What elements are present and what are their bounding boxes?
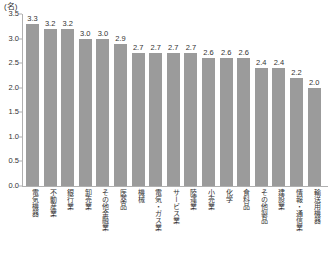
x-axis-category-label: 食料品 — [237, 189, 250, 210]
bar-column: 2.7 — [132, 14, 145, 186]
x-axis-category-label: 化学 — [220, 189, 233, 203]
y-axis-tick-label: 2.5 — [9, 59, 19, 67]
bar — [167, 53, 180, 186]
plot-area: 3.33.23.23.03.02.92.72.72.72.72.62.62.62… — [23, 14, 328, 186]
x-axis-category-labels: 電気機器不動産業銀行業卸売業その他金融業医薬品機械電気・ガス業サービス業陸運業小… — [23, 189, 328, 269]
y-axis-tick-mark — [19, 112, 22, 113]
x-axis-category-label: その他金融業 — [96, 189, 109, 231]
bar — [237, 58, 250, 186]
x-axis-category-label: その他製品 — [255, 189, 268, 224]
x-axis-category-label: 陸運業 — [184, 189, 197, 210]
bar — [79, 39, 92, 186]
bar-column: 2.6 — [237, 14, 250, 186]
bar — [290, 78, 303, 186]
bar-column: 2.9 — [114, 14, 127, 186]
y-axis-tick-mark — [19, 87, 22, 88]
bar-value-label: 2.9 — [115, 34, 125, 43]
x-axis-category-label: 電気・ガス業 — [149, 189, 162, 231]
bar-value-label: 2.4 — [274, 58, 284, 67]
y-axis-tick-mark — [19, 38, 22, 39]
y-axis-tick-mark — [19, 63, 22, 64]
bar-column: 3.2 — [44, 14, 57, 186]
bar-value-label: 2.6 — [221, 48, 231, 57]
bar — [61, 29, 74, 186]
bar-value-label: 2.7 — [133, 43, 143, 52]
bar — [255, 68, 268, 186]
bar-value-label: 2.6 — [238, 48, 248, 57]
x-axis-category-label: 卸売業 — [79, 189, 92, 210]
y-axis-tick-label: 2.0 — [9, 84, 19, 92]
y-axis-tick-mark — [19, 161, 22, 162]
bar-column: 3.0 — [96, 14, 109, 186]
bar-value-label: 3.0 — [80, 29, 90, 38]
bar-value-label: 3.2 — [62, 19, 72, 28]
x-axis-category-label: 建設業 — [272, 189, 285, 210]
bar-value-label: 2.7 — [168, 43, 178, 52]
bar-column: 2.6 — [202, 14, 215, 186]
bar-value-label: 2.7 — [186, 43, 196, 52]
y-axis-tick-label: 0.0 — [9, 182, 19, 190]
bar — [114, 44, 127, 187]
x-axis-category-label: サービス業 — [167, 189, 180, 224]
y-axis-tick-label: 0.5 — [9, 157, 19, 165]
bar-value-label: 2.4 — [256, 58, 266, 67]
y-axis-tick-label: 3.0 — [9, 35, 19, 43]
x-axis-category-label: 機械 — [132, 189, 145, 203]
bar-value-label: 3.3 — [27, 14, 37, 23]
y-axis-tick-label: 1.5 — [9, 108, 19, 116]
bar-column: 2.6 — [220, 14, 233, 186]
bar-value-label: 3.0 — [98, 29, 108, 38]
bar-column: 2.7 — [167, 14, 180, 186]
bar-column: 3.0 — [79, 14, 92, 186]
y-axis-tick-mark — [19, 136, 22, 137]
bar-column: 2.2 — [290, 14, 303, 186]
x-axis-category-label: 小売業 — [202, 189, 215, 210]
bar — [26, 24, 39, 186]
bar-value-label: 2.6 — [203, 48, 213, 57]
bar — [220, 58, 233, 186]
bar-value-label: 2.2 — [291, 68, 301, 77]
x-axis-category-label: 輸送用機器 — [308, 189, 321, 224]
bar-column: 3.2 — [61, 14, 74, 186]
bar-value-label: 3.2 — [45, 19, 55, 28]
x-axis-category-label: 情報・通信業 — [290, 189, 303, 231]
bar-column: 2.7 — [149, 14, 162, 186]
bar-column: 2.7 — [184, 14, 197, 186]
bar-value-label: 2.0 — [309, 78, 319, 87]
bar — [272, 68, 285, 186]
y-axis-tick-mark — [19, 186, 22, 187]
x-axis-category-label: 不動産業 — [44, 189, 57, 217]
x-axis-category-label: 銀行業 — [61, 189, 74, 210]
bar — [96, 39, 109, 186]
y-axis-tick-label: 3.5 — [9, 10, 19, 18]
bar — [132, 53, 145, 186]
bar-value-label: 2.7 — [150, 43, 160, 52]
bar — [44, 29, 57, 186]
y-axis-tick-label: 1.0 — [9, 133, 19, 141]
bar-column: 2.0 — [308, 14, 321, 186]
bar — [202, 58, 215, 186]
bar-column: 2.4 — [272, 14, 285, 186]
bar — [308, 88, 321, 186]
bar — [184, 53, 197, 186]
x-axis-line — [22, 186, 328, 187]
x-axis-category-label: 電気機器 — [26, 189, 39, 217]
x-axis-category-label: 医薬品 — [114, 189, 127, 210]
y-axis-tick-mark — [19, 14, 22, 15]
bar-chart: (名) 3.53.02.52.01.51.00.50.0 3.33.23.23.… — [0, 0, 330, 270]
bar-column: 2.4 — [255, 14, 268, 186]
bar — [149, 53, 162, 186]
bar-column: 3.3 — [26, 14, 39, 186]
